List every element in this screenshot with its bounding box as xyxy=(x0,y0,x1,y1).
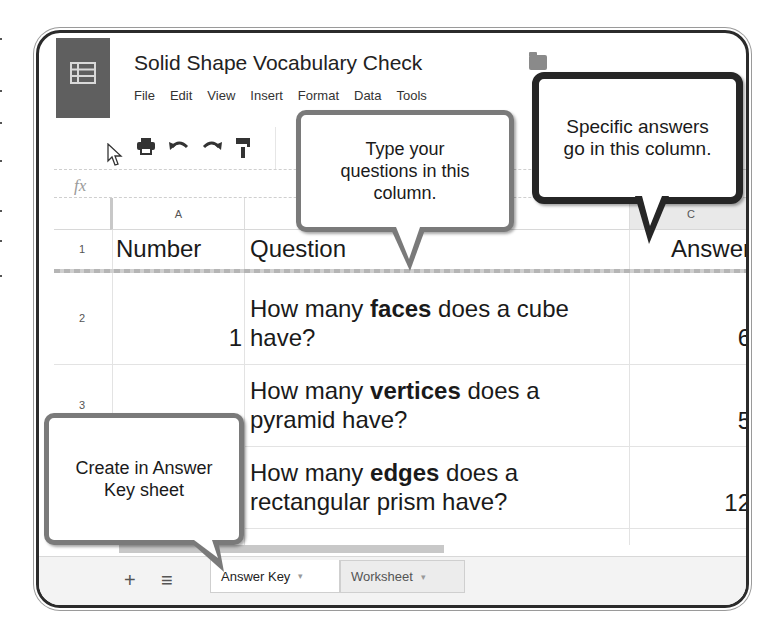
chevron-down-icon[interactable]: ▾ xyxy=(298,571,303,581)
column-header-a[interactable]: A xyxy=(110,198,244,230)
cell-a1[interactable]: Number xyxy=(116,234,201,263)
question-keyword: vertices xyxy=(370,377,461,404)
mouse-cursor-icon xyxy=(107,143,123,167)
callout-answers-pointer xyxy=(635,196,669,246)
cell-b2[interactable]: How many faces does a cube have? xyxy=(250,294,628,352)
cell-a2[interactable]: 1 xyxy=(112,323,242,352)
row-header-2[interactable]: 2 xyxy=(54,273,110,363)
question-text: How many xyxy=(250,295,370,322)
redo-icon[interactable] xyxy=(202,137,222,155)
menu-insert[interactable]: Insert xyxy=(250,88,283,103)
app-logo[interactable] xyxy=(56,38,110,118)
menu-edit[interactable]: Edit xyxy=(170,88,192,103)
callout-answer-key-text: Create in Answer Key sheet xyxy=(74,457,214,501)
menu-file[interactable]: File xyxy=(134,88,155,103)
add-sheet-button[interactable]: + xyxy=(124,569,136,592)
sheets-grid-icon xyxy=(70,62,96,84)
question-text: How many xyxy=(250,377,370,404)
tab-label: Worksheet xyxy=(351,569,413,584)
callout-questions: Type your questions in this column. xyxy=(296,110,514,232)
row-header-1[interactable]: 1 xyxy=(54,230,110,268)
column-divider-ab xyxy=(244,230,245,545)
corner-header[interactable] xyxy=(54,198,110,230)
horizontal-scrollbar[interactable] xyxy=(119,545,444,553)
menu-format[interactable]: Format xyxy=(298,88,339,103)
question-keyword: edges xyxy=(370,459,439,486)
all-sheets-button[interactable]: ≡ xyxy=(161,569,173,592)
cell-b4[interactable]: How many edges does a rectangular prism … xyxy=(250,458,628,516)
cell-c3[interactable]: 5 xyxy=(629,406,749,435)
chevron-down-icon[interactable]: ▾ xyxy=(421,572,426,582)
callout-questions-text: Type your questions in this column. xyxy=(330,138,480,204)
cell-c4[interactable]: 12 xyxy=(629,488,749,517)
question-keyword: faces xyxy=(370,295,431,322)
tab-answer-key[interactable]: Answer Key ▾ xyxy=(210,560,340,593)
folder-icon[interactable] xyxy=(529,55,547,70)
undo-icon[interactable] xyxy=(169,137,189,155)
menu-data[interactable]: Data xyxy=(354,88,381,103)
document-title[interactable]: Solid Shape Vocabulary Check xyxy=(134,51,422,75)
paint-format-icon[interactable] xyxy=(235,137,251,159)
question-text: How many xyxy=(250,459,370,486)
callout-answer-key: Create in Answer Key sheet xyxy=(44,413,244,545)
cell-c2[interactable]: 6 xyxy=(629,323,749,352)
menu-tools[interactable]: Tools xyxy=(396,88,426,103)
fx-icon: fx xyxy=(74,176,86,196)
cell-b1-text: Question xyxy=(250,235,346,262)
edge-marks xyxy=(0,30,3,290)
sheet-tab-bar: + ≡ Answer Key ▾ Worksheet ▾ xyxy=(39,556,746,608)
tab-worksheet[interactable]: Worksheet ▾ xyxy=(340,560,465,593)
menu-view[interactable]: View xyxy=(207,88,235,103)
callout-answers: Specific answers go in this column. xyxy=(532,72,743,204)
callout-questions-pointer xyxy=(390,227,426,273)
callout-answer-key-pointer xyxy=(188,540,228,574)
menu-bar: File Edit View Insert Format Data Tools xyxy=(134,88,442,103)
callout-answers-text: Specific answers go in this column. xyxy=(558,116,718,160)
cell-b1[interactable]: Question xyxy=(250,234,346,263)
tab-label: Answer Key xyxy=(221,569,290,584)
cell-b3[interactable]: How many vertices does a pyramid have? xyxy=(250,376,628,434)
toolbar-separator xyxy=(275,127,276,169)
row-divider xyxy=(54,364,749,365)
print-icon[interactable] xyxy=(136,137,156,155)
